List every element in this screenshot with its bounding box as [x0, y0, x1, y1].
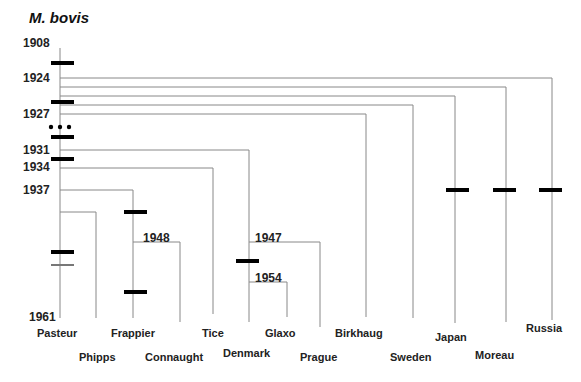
- event-marker: [493, 188, 516, 192]
- year-label: 1947: [255, 231, 282, 245]
- year-label: 1937: [23, 183, 50, 197]
- genealogy-tree: [0, 0, 581, 382]
- event-marker: [51, 135, 74, 139]
- event-marker: [539, 188, 562, 192]
- year-label: 1934: [23, 160, 50, 174]
- event-marker: [51, 264, 74, 266]
- year-label: 1924: [23, 71, 50, 85]
- year-label: 1954: [255, 271, 282, 285]
- event-marker: [51, 157, 74, 161]
- event-marker: [124, 290, 147, 294]
- year-label: 1961: [29, 310, 56, 324]
- strain-label-tice: Tice: [202, 327, 224, 339]
- strain-label-prague: Prague: [300, 351, 337, 363]
- strain-label-denmark: Denmark: [223, 347, 270, 359]
- strain-label-glaxo: Glaxo: [265, 327, 296, 339]
- year-label: 1931: [23, 143, 50, 157]
- event-marker: [124, 210, 147, 214]
- event-marker: [51, 250, 74, 254]
- strain-label-phipps: Phipps: [79, 351, 116, 363]
- event-marker: [51, 100, 74, 104]
- strain-label-sweden: Sweden: [390, 351, 432, 363]
- strain-label-frappier: Frappier: [111, 327, 155, 339]
- ellipsis-dot: [67, 125, 71, 129]
- ellipsis-dot: [58, 125, 62, 129]
- strain-label-japan: Japan: [435, 331, 467, 343]
- event-marker: [236, 259, 259, 263]
- year-label: 1908: [23, 36, 50, 50]
- year-label: 1948: [143, 231, 170, 245]
- year-label: 1927: [23, 107, 50, 121]
- event-marker: [446, 188, 469, 192]
- strain-label-connaught: Connaught: [145, 351, 203, 363]
- strain-label-moreau: Moreau: [475, 349, 514, 361]
- strain-label-pasteur: Pasteur: [37, 327, 77, 339]
- strain-label-birkhaug: Birkhaug: [335, 327, 383, 339]
- event-marker: [51, 61, 74, 65]
- strain-label-russia: Russia: [526, 322, 562, 334]
- ellipsis-dot: [49, 125, 53, 129]
